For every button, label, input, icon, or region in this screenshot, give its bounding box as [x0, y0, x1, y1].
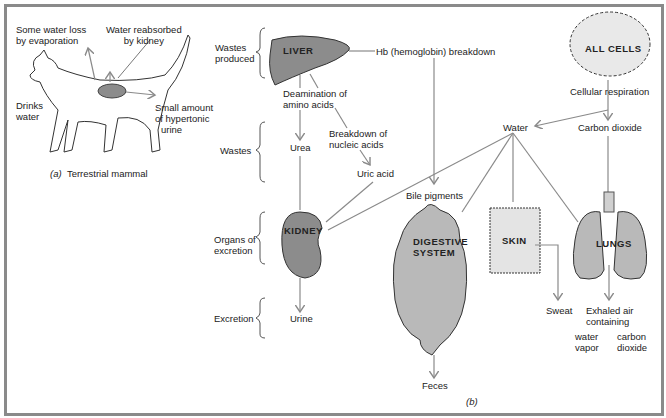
label-nucleic-acids: Breakdown ofnucleic acids: [329, 128, 387, 150]
organ-kidney: KIDNEY: [284, 225, 323, 236]
bracket-wastes-produced: Wastesproduced: [215, 42, 255, 64]
organ-skin: SKIN: [500, 235, 529, 246]
label-carbon-dioxide: Carbon dioxide: [578, 122, 642, 133]
organ-digestive-system: DIGESTIVESYSTEM: [413, 236, 468, 258]
label-cellular-respiration: Cellular respiration: [570, 86, 649, 97]
liver-shape: [270, 36, 350, 85]
caption-a: (a) Terrestrial mammal: [50, 168, 148, 179]
label-sweat: Sweat: [546, 305, 572, 316]
label-drinks-water: Drinkswater: [16, 100, 43, 122]
label-deamination: Deamination ofamino acids: [283, 88, 347, 110]
label-uric-acid: Uric acid: [357, 168, 394, 179]
bracket-excretion: Excretion: [214, 313, 254, 324]
label-urine: Urine: [290, 313, 313, 324]
label-bile-pigments: Bile pigments: [406, 190, 463, 201]
label-water-reabsorbed: Water reabsorbedby kidney: [106, 24, 182, 46]
label-water: Water: [503, 122, 528, 133]
brackets: [256, 28, 265, 338]
digestive-shape: [393, 204, 466, 355]
bracket-wastes: Wastes: [220, 145, 251, 156]
label-hb-breakdown: Hb (hemoglobin) breakdown: [376, 46, 495, 57]
label-hypertonic-urine: Small amountof hypertonicurine: [155, 102, 213, 135]
caption-b: (b): [466, 396, 478, 407]
bracket-organs-of-excretion: Organs ofexcretion: [214, 234, 256, 256]
organ-liver: LIVER: [283, 45, 313, 56]
label-urea: Urea: [290, 142, 311, 153]
label-feces: Feces: [422, 380, 448, 391]
label-water-vapor: watervapor: [575, 331, 599, 353]
organ-lungs: LUNGS: [596, 238, 632, 249]
label-carbon-dioxide-exhaled: carbondioxide: [617, 331, 647, 353]
kidney-shape: [282, 212, 322, 278]
organ-all-cells: ALL CELLS: [585, 43, 642, 54]
label-exhaled-air: Exhaled aircontaining: [586, 305, 634, 327]
diagram-artwork: [0, 0, 666, 418]
label-evaporation: Some water lossby evaporation: [16, 24, 86, 46]
cat-kidney-shape: [98, 84, 126, 98]
